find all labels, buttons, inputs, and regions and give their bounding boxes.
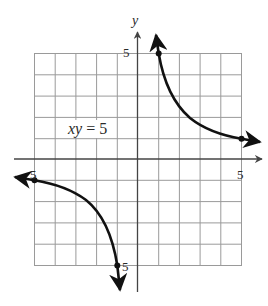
y-axis-label: y: [132, 14, 138, 28]
equation-rhs: 5: [99, 120, 107, 137]
equation-op: =: [82, 120, 99, 137]
hyperbola-branch-q1: [156, 35, 260, 142]
hyperbola-branch-q3: [15, 177, 120, 290]
equation-label: xy = 5: [65, 120, 110, 138]
equation-lhs: xy: [68, 120, 82, 137]
x-tick-neg5: 5: [30, 168, 37, 181]
axes: [14, 32, 262, 292]
x-tick-5: 5: [237, 168, 244, 181]
graph-canvas: [0, 0, 268, 306]
y-tick-5: 5: [123, 46, 130, 59]
y-tick-neg5: 5: [122, 260, 129, 273]
